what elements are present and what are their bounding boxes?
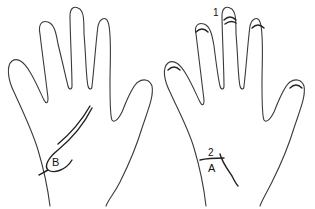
nail-little xyxy=(290,85,302,88)
right-hand: 1 2 A xyxy=(164,7,304,206)
right-hand-outline xyxy=(164,7,304,206)
nail-index xyxy=(196,29,208,32)
wrist-line xyxy=(200,158,224,160)
label-b: B xyxy=(52,156,59,168)
label-1: 1 xyxy=(213,7,219,18)
left-hand: B xyxy=(8,7,152,206)
hands-diagram: B 1 2 A xyxy=(0,0,315,209)
thenar-crease-inner xyxy=(58,106,90,144)
wrist-curve xyxy=(220,154,238,186)
nail-thumb xyxy=(168,67,180,70)
label-a: A xyxy=(208,162,216,174)
left-hand-outline xyxy=(8,7,152,206)
nail-ring xyxy=(252,25,264,28)
label-2: 2 xyxy=(208,147,214,158)
nail-middle xyxy=(224,17,236,24)
